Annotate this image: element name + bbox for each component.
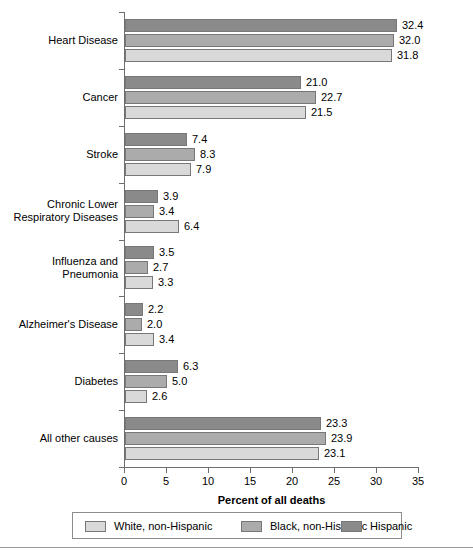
category-label-line: Chronic Lower xyxy=(0,198,118,211)
category-label: Alzheimer's Disease xyxy=(0,318,118,331)
bar xyxy=(125,432,326,445)
bar xyxy=(125,261,148,274)
y-axis-tick xyxy=(119,296,124,297)
bar xyxy=(125,220,179,233)
category-label-line: Alzheimer's Disease xyxy=(0,318,118,331)
x-axis-tick xyxy=(292,468,293,473)
legend-swatch xyxy=(241,521,262,532)
x-axis-tick xyxy=(166,468,167,473)
bar-value-label: 7.9 xyxy=(196,163,211,176)
x-axis-tick xyxy=(250,468,251,473)
x-axis-tick-label: 25 xyxy=(319,475,349,487)
bar xyxy=(125,390,147,403)
bar xyxy=(125,133,187,146)
bar xyxy=(125,19,397,32)
bar xyxy=(125,190,158,203)
x-axis-tick-label: 0 xyxy=(109,475,139,487)
y-axis-tick xyxy=(119,240,124,241)
bar-value-label: 2.0 xyxy=(147,318,162,331)
x-axis-tick-label: 20 xyxy=(277,475,307,487)
bar xyxy=(125,375,167,388)
bar-value-label: 23.9 xyxy=(331,432,352,445)
bar-value-label: 6.3 xyxy=(183,360,198,373)
category-label: Stroke xyxy=(0,148,118,161)
legend-label: White, non-Hispanic xyxy=(114,520,212,532)
category-label-line: Respiratory Diseases xyxy=(0,211,118,224)
bottom-divider xyxy=(0,547,473,548)
bar xyxy=(125,148,195,161)
legend-swatch xyxy=(85,521,106,532)
x-axis-tick-label: 35 xyxy=(403,475,433,487)
category-axis-labels: Heart DiseaseCancerStrokeChronic LowerRe… xyxy=(0,12,118,467)
category-label-line: Diabetes xyxy=(0,375,118,388)
x-axis-tick-label: 30 xyxy=(361,475,391,487)
bar xyxy=(125,205,154,218)
bar-value-label: 21.5 xyxy=(311,106,332,119)
category-label-line: Stroke xyxy=(0,148,118,161)
x-axis-tick-label: 15 xyxy=(235,475,265,487)
bar xyxy=(125,76,301,89)
category-label-line: Cancer xyxy=(0,91,118,104)
category-label: All other causes xyxy=(0,432,118,445)
bar-value-label: 8.3 xyxy=(200,148,215,161)
y-axis-tick xyxy=(119,12,124,13)
bar xyxy=(125,303,143,316)
bar-value-label: 31.8 xyxy=(397,49,418,62)
bar xyxy=(125,333,154,346)
bar-value-label: 23.1 xyxy=(324,447,345,460)
bar xyxy=(125,49,392,62)
bar-value-label: 21.0 xyxy=(306,76,327,89)
legend-entry[interactable]: Hispanic xyxy=(341,518,412,534)
category-label: Cancer xyxy=(0,91,118,104)
bar xyxy=(125,360,178,373)
y-axis-tick xyxy=(119,126,124,127)
bar xyxy=(125,276,153,289)
bar-value-label: 32.0 xyxy=(399,34,420,47)
x-axis-tick xyxy=(334,468,335,473)
y-axis-tick xyxy=(119,410,124,411)
bar xyxy=(125,417,321,430)
x-axis-tick xyxy=(124,468,125,473)
x-axis-line xyxy=(124,467,419,468)
bar xyxy=(125,318,142,331)
bar-value-label: 3.3 xyxy=(158,276,173,289)
y-axis-tick xyxy=(119,183,124,184)
bar-value-label: 22.7 xyxy=(321,91,342,104)
x-axis-tick xyxy=(376,468,377,473)
bar xyxy=(125,91,316,104)
category-label-line: Heart Disease xyxy=(0,34,118,47)
x-axis-tick-label: 10 xyxy=(193,475,223,487)
chart-figure: Heart DiseaseCancerStrokeChronic LowerRe… xyxy=(0,0,473,556)
bar-value-label: 6.4 xyxy=(184,220,199,233)
bar-value-label: 23.3 xyxy=(326,417,347,430)
category-label: Influenza andPneumonia xyxy=(0,255,118,281)
plot-area: 05101520253035 32.432.031.821.022.721.57… xyxy=(124,12,418,467)
category-label-line: All other causes xyxy=(0,432,118,445)
bar-value-label: 3.9 xyxy=(163,190,178,203)
bar-value-label: 3.4 xyxy=(159,205,174,218)
bar-value-label: 32.4 xyxy=(402,19,423,32)
bar-value-label: 2.2 xyxy=(148,303,163,316)
category-label: Diabetes xyxy=(0,375,118,388)
legend-entry[interactable]: White, non-Hispanic xyxy=(85,518,212,534)
bar-value-label: 5.0 xyxy=(172,375,187,388)
bar xyxy=(125,106,306,119)
legend-label: Hispanic xyxy=(370,520,412,532)
category-label: Chronic LowerRespiratory Diseases xyxy=(0,198,118,224)
legend-box: White, non-HispanicBlack, non-HispanicHi… xyxy=(72,512,402,539)
x-axis-tick-label: 5 xyxy=(151,475,181,487)
legend-swatch xyxy=(341,521,362,532)
bar-value-label: 2.7 xyxy=(153,261,168,274)
category-label-line: Influenza and xyxy=(0,255,118,268)
category-label-line: Pneumonia xyxy=(0,268,118,281)
y-axis-tick xyxy=(119,353,124,354)
x-axis-tick xyxy=(208,468,209,473)
bar xyxy=(125,163,191,176)
bar-value-label: 3.4 xyxy=(159,333,174,346)
category-label: Heart Disease xyxy=(0,34,118,47)
bar-value-label: 3.5 xyxy=(159,246,174,259)
x-axis-title: Percent of all deaths xyxy=(124,494,419,506)
bar-value-label: 7.4 xyxy=(192,133,207,146)
x-axis-tick xyxy=(418,468,419,473)
bar xyxy=(125,34,394,47)
